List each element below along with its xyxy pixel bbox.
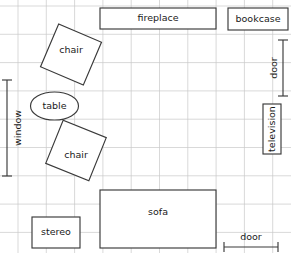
furniture-fireplace: fireplace <box>100 8 216 29</box>
chair-top-label: chair <box>59 44 83 55</box>
door-right-label: door <box>268 57 279 79</box>
floor-plan-canvas: fireplacebookcasetelevisionchairtablecha… <box>0 0 291 253</box>
furniture-television: television <box>263 104 281 154</box>
furniture-chair-top: chair <box>41 24 102 85</box>
television-label: television <box>266 106 277 152</box>
furniture-table: table <box>31 92 79 120</box>
furniture-stereo: stereo <box>32 217 80 248</box>
window-left-label: window <box>12 110 23 146</box>
chair-top-outline <box>41 24 102 85</box>
stereo-label: stereo <box>41 226 71 237</box>
sofa-label: sofa <box>148 206 168 217</box>
table-label: table <box>42 100 66 111</box>
door-bottom-label: door <box>240 231 262 242</box>
chair-bottom-label: chair <box>64 149 88 160</box>
furniture-bookcase: bookcase <box>228 8 288 30</box>
furniture-sofa: sofa <box>100 190 216 248</box>
fireplace-label: fireplace <box>137 12 178 23</box>
opening-window-left: window <box>2 80 23 176</box>
opening-door-right: door <box>268 40 289 96</box>
bookcase-label: bookcase <box>236 13 281 24</box>
furniture-chair-bottom: chair <box>46 120 107 181</box>
opening-door-bottom: door <box>224 231 278 253</box>
sofa-outline <box>100 190 216 248</box>
floor-plan-diagram: fireplacebookcasetelevisionchairtablecha… <box>0 0 291 253</box>
